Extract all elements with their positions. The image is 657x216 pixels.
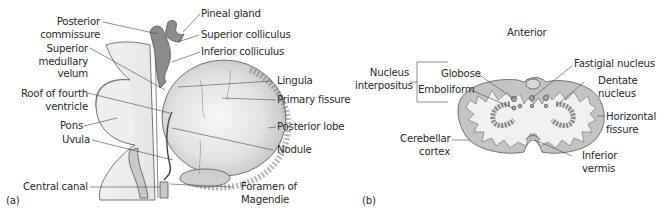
label-inferior-vermis: Inferior vermis — [582, 150, 617, 175]
label-globose: Globose — [441, 68, 481, 81]
cerebellum-figure: Posterior commissure Superior medullary … — [0, 0, 657, 216]
label-nodule: Nodule — [277, 144, 312, 157]
panel-b-drawing — [458, 78, 604, 154]
panel-b-tag: (b) — [362, 195, 376, 208]
label-dentate-nucleus: Dentate nucleus — [598, 75, 638, 100]
label-lingula: Lingula — [277, 75, 313, 88]
label-posterior-commissure: Posterior commissure — [40, 16, 100, 41]
label-foramen-magendie: Foramen of Magendie — [241, 181, 297, 206]
label-pons: Pons — [40, 120, 83, 133]
label-central-canal: Central canal — [10, 181, 88, 194]
label-posterior-lobe: Posterior lobe — [277, 121, 344, 134]
label-superior-medullary-velum: Superior medullary velum — [20, 43, 88, 81]
label-emboliform: Emboliform — [418, 84, 474, 97]
label-pineal-gland: Pineal gland — [201, 8, 261, 21]
label-superior-colliculus: Superior colliculus — [201, 29, 291, 42]
label-horizontal-fissure: Horizontal fissure — [606, 111, 656, 136]
label-roof-fourth-ventricle: Roof of fourth ventricle — [6, 88, 88, 113]
label-nucleus-interpositus: Nucleus interpositus — [355, 67, 409, 92]
label-cerebellar-cortex: Cerebellar cortex — [400, 133, 450, 158]
panel-a-tag: (a) — [6, 195, 20, 208]
label-anterior: Anterior — [507, 27, 547, 40]
label-inferior-colliculus: Inferior colliculus — [201, 46, 284, 59]
label-primary-fissure: Primary fissure — [277, 94, 350, 107]
label-uvula: Uvula — [40, 134, 90, 147]
label-fastigial-nucleus: Fastigial nucleus — [574, 58, 655, 71]
